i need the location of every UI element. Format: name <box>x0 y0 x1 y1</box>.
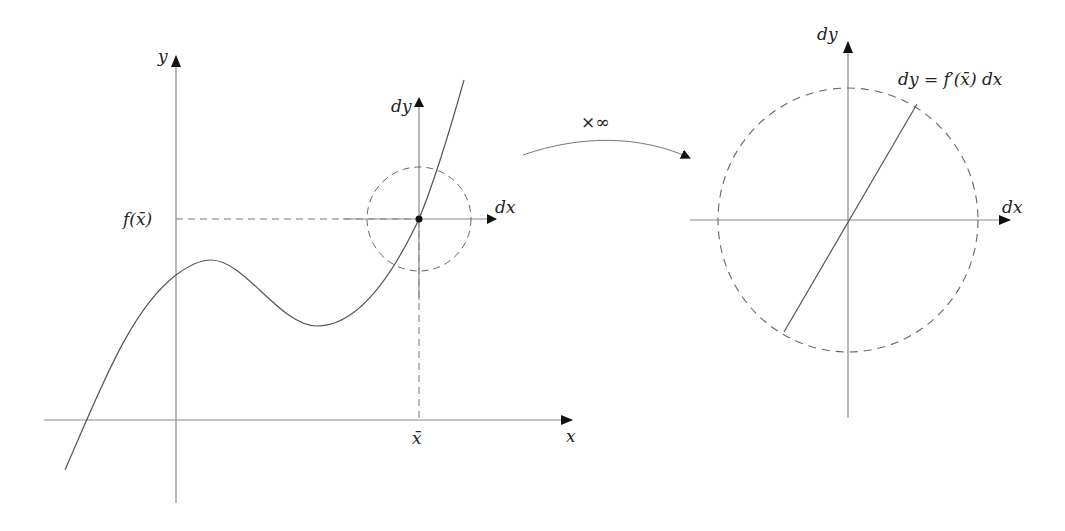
dy-label: dy <box>817 24 838 44</box>
local-dx-label: dx <box>495 197 516 217</box>
tangent-point <box>416 216 423 223</box>
function-curve <box>65 80 464 470</box>
dx-label: dx <box>1002 197 1023 217</box>
y-axis-label: y <box>157 46 168 66</box>
tangent-line <box>784 104 917 332</box>
xbar-label: x̄ <box>412 428 422 448</box>
zoom-arrow-curve <box>523 140 690 158</box>
right-plot: dy dx dy = f′(x̄) dx <box>690 24 1023 418</box>
fx-label: f(x̄) <box>121 209 152 229</box>
zoom-arrow: ×∞ <box>523 112 690 158</box>
x-axis-label: x <box>566 426 576 446</box>
zoom-factor-label: ×∞ <box>581 112 609 132</box>
equation-label: dy = f′(x̄) dx <box>898 69 1003 89</box>
local-dy-label: dy <box>391 96 412 116</box>
left-plot: y x f(x̄) x̄ dy dx <box>44 46 576 503</box>
diagram-canvas: y x f(x̄) x̄ dy dx ×∞ dy dx dy = f′(x̄) … <box>0 0 1065 531</box>
